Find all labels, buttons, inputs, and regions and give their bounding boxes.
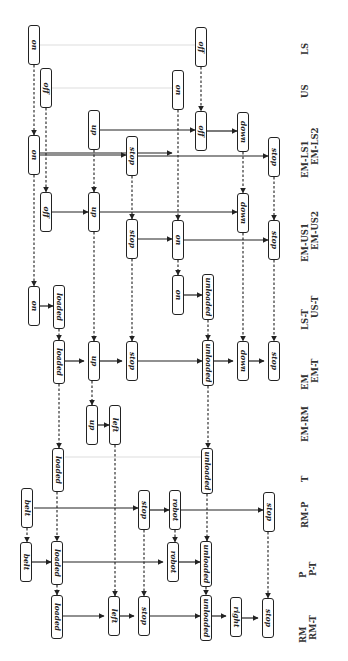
state-node-unloaded: unloaded <box>200 541 212 587</box>
state-label: stop <box>270 352 279 370</box>
state-label: loaded <box>55 348 64 376</box>
state-node-loaded: loaded <box>53 285 65 329</box>
state-node-up: up <box>88 341 100 381</box>
state-label: unloaded <box>202 599 211 638</box>
state-node-stop: stop <box>262 598 274 638</box>
state-diagram: onoffonoffonupstopoffdownstopoffupstopon… <box>0 0 348 661</box>
state-node-up: up <box>88 110 100 150</box>
state-label: on <box>174 290 183 300</box>
state-label: stop <box>128 230 137 248</box>
row-label-rm-p: RM-P <box>300 502 310 528</box>
state-label: belt <box>22 554 31 570</box>
state-label: stop <box>128 147 137 165</box>
state-node-stop: stop <box>268 220 280 260</box>
state-node-stop: stop <box>126 136 138 176</box>
state-node-unloaded: unloaded <box>202 340 214 386</box>
state-label: left <box>111 418 120 432</box>
state-node-loaded: loaded <box>52 448 64 492</box>
state-label: unloaded <box>203 452 212 491</box>
state-label: down <box>239 202 248 224</box>
state-node-on: on <box>172 220 184 260</box>
state-label: right <box>232 607 241 628</box>
state-label: up <box>90 356 99 367</box>
state-label: stop <box>270 231 279 249</box>
state-label: stop <box>265 503 274 521</box>
state-label: off <box>197 41 206 52</box>
row-label-ls: LS <box>300 43 310 55</box>
state-label: belt <box>23 500 32 516</box>
state-node-robot: robot <box>167 542 179 582</box>
row-label-ls-t: LS-T <box>300 309 310 330</box>
state-node-up: up <box>86 405 98 445</box>
state-label: off <box>42 206 51 217</box>
state-node-stop: stop <box>138 490 150 530</box>
state-label: robot <box>169 551 178 574</box>
state-node-stop: stop <box>268 137 280 177</box>
row-label-t: T <box>300 476 310 482</box>
state-label: stop <box>264 609 273 627</box>
state-node-unloaded: unloaded <box>200 595 212 641</box>
state-node-off: off <box>40 192 52 232</box>
state-label: up <box>88 420 97 431</box>
state-label: up <box>90 125 99 136</box>
row-label-us: US <box>300 84 310 98</box>
state-node-right: right <box>230 597 242 637</box>
state-node-robot: robot <box>169 490 181 530</box>
state-node-loaded: loaded <box>51 595 63 639</box>
state-node-loaded: loaded <box>53 340 65 384</box>
state-label: off <box>42 82 51 93</box>
state-node-stop: stop <box>263 492 275 532</box>
state-label: stop <box>270 148 279 166</box>
state-label: unloaded <box>204 278 213 317</box>
row-label-rm: RM <box>298 627 308 643</box>
row-label-em-rm: EM-RM <box>300 406 310 442</box>
state-node-on: on <box>28 286 40 326</box>
row-label-p: P <box>298 572 308 578</box>
state-node-belt: belt <box>21 488 33 528</box>
state-label: on <box>30 301 39 311</box>
row-label-em-t: EM-T <box>310 359 320 383</box>
state-node-on: on <box>28 25 40 65</box>
state-node-down: down <box>237 112 249 152</box>
state-label: loaded <box>53 549 62 577</box>
state-label: up <box>90 207 99 218</box>
state-label: stop <box>128 352 137 370</box>
state-node-unloaded: unloaded <box>202 274 214 320</box>
state-label: on <box>174 235 183 245</box>
state-label: stop <box>140 501 149 519</box>
row-label-em-ls1: EM-LS1 <box>300 141 310 178</box>
state-node-unloaded: unloaded <box>201 448 213 494</box>
state-label: down <box>239 121 248 143</box>
row-label-em: EM <box>300 374 310 390</box>
row-label-em-us1: EM-US1 <box>300 223 310 262</box>
state-label: loaded <box>54 456 63 484</box>
state-label: on <box>30 40 39 50</box>
state-node-left: left <box>108 596 120 636</box>
state-label: unloaded <box>202 545 211 584</box>
state-node-down: down <box>237 193 249 233</box>
row-label-rm-t: RM-T <box>308 615 318 640</box>
row-label-us-t: US-T <box>310 296 320 318</box>
state-label: stop <box>140 607 149 625</box>
state-label: unloaded <box>204 344 213 383</box>
row-label-p-t: P-T <box>308 562 318 576</box>
state-node-belt: belt <box>20 542 32 582</box>
state-node-up: up <box>88 192 100 232</box>
state-node-off: off <box>195 27 207 67</box>
state-node-off: off <box>40 68 52 108</box>
state-node-stop: stop <box>126 341 138 381</box>
state-label: loaded <box>55 293 64 321</box>
state-node-on: on <box>172 70 184 110</box>
state-node-on: on <box>28 135 40 175</box>
state-label: robot <box>171 499 180 522</box>
state-label: off <box>197 125 206 136</box>
state-node-loaded: loaded <box>51 541 63 585</box>
state-label: on <box>30 150 39 160</box>
state-node-down: down <box>237 341 249 381</box>
row-label-em-us2: EM-US2 <box>310 211 320 250</box>
state-label: down <box>239 350 248 372</box>
state-label: on <box>174 85 183 95</box>
state-node-on: on <box>172 275 184 315</box>
state-label: loaded <box>53 603 62 631</box>
state-node-off: off <box>195 111 207 151</box>
